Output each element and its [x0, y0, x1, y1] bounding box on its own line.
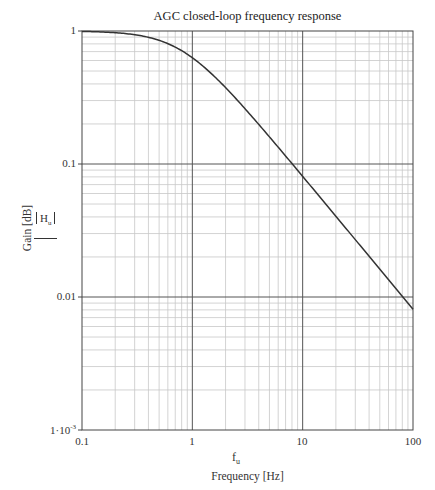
- y-tick-0.001: 1·10-3: [16, 423, 76, 436]
- x-variable-label: fu: [232, 450, 240, 466]
- x-tick-100: 100: [393, 435, 433, 447]
- x-tick-10: 10: [282, 435, 322, 447]
- x-tick-1: 1: [172, 435, 212, 447]
- y-axis-title: Gain [dB]: [21, 193, 33, 263]
- x-tick-0.1: 0.1: [62, 435, 102, 447]
- y-tick-0.01: 0.01: [16, 290, 76, 302]
- plot-area: [0, 0, 435, 490]
- y-tick-0.1: 0.1: [16, 157, 76, 169]
- y-variable-label: Hu: [36, 212, 55, 227]
- y-tick-1: 1: [16, 24, 76, 36]
- x-axis-title: Frequency [Hz]: [82, 470, 413, 482]
